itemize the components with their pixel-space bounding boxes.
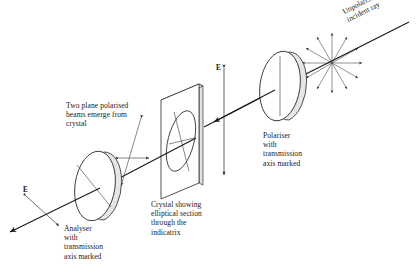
optics-diagram-svg [0,0,417,273]
label-crystal: Crystal showing elliptical section throu… [151,200,202,237]
starburst-rays [302,33,362,93]
ray-arrow-polariser-crystal [214,98,260,122]
label-polariser: Polariser with transmission axis marked [263,131,302,168]
polariser-disc [255,49,306,124]
analyser-disc [70,149,121,224]
label-e-vector-middle: E [216,64,221,72]
diagram-canvas: Unpolarised incident ray Polariser with … [0,0,417,273]
crystal-plate [161,84,203,199]
label-e-vector-left: E [23,186,28,194]
label-emergent-beams: Two plane polarised beams emerge from cr… [66,101,128,129]
label-analyser: Analyser with transmission axis marked [64,224,103,261]
incident-ray-segment [296,22,409,79]
